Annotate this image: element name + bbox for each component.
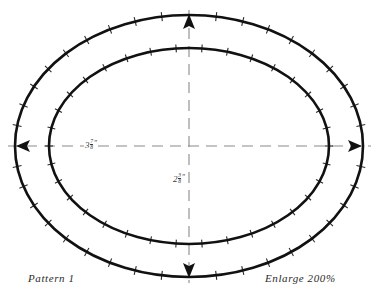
pattern-drawing [0,0,385,300]
caption-enlarge-instruction: Enlarge 200% [265,272,336,284]
dimension-label-horizontal: 378″ [84,139,98,151]
caption-pattern-name: Pattern 1 [28,272,75,284]
dimension-horizontal-unit: ″ [94,139,97,148]
centerline-group [8,10,371,283]
dimension-vertical-unit: ″ [182,173,185,182]
pattern-page: 378″ 238″ Pattern 1 Enlarge 200% [0,0,385,300]
dimension-label-vertical: 238″ [172,173,186,185]
